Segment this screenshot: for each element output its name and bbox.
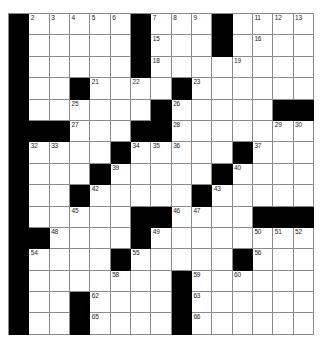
letter-square[interactable]	[172, 249, 192, 270]
letter-square[interactable]: 25	[70, 100, 90, 121]
letter-square[interactable]	[29, 57, 49, 78]
letter-square[interactable]: 47	[192, 207, 212, 228]
letter-square[interactable]	[111, 121, 131, 142]
letter-square[interactable]	[50, 207, 70, 228]
letter-square[interactable]	[192, 57, 212, 78]
letter-square[interactable]: 11	[253, 14, 273, 35]
letter-square[interactable]	[90, 57, 110, 78]
letter-square[interactable]	[90, 35, 110, 56]
letter-square[interactable]	[233, 292, 253, 313]
letter-square[interactable]	[50, 57, 70, 78]
letter-square[interactable]	[233, 35, 253, 56]
letter-square[interactable]	[90, 228, 110, 249]
letter-square[interactable]: 51	[273, 228, 293, 249]
letter-square[interactable]	[172, 57, 192, 78]
letter-square[interactable]: 30	[294, 121, 314, 142]
letter-square[interactable]	[172, 35, 192, 56]
letter-square[interactable]	[233, 78, 253, 99]
letter-square[interactable]: 27	[70, 121, 90, 142]
letter-square[interactable]: 66	[192, 313, 212, 334]
letter-square[interactable]	[233, 185, 253, 206]
letter-square[interactable]: 36	[172, 142, 192, 163]
letter-square[interactable]	[70, 249, 90, 270]
letter-square[interactable]	[273, 57, 293, 78]
letter-square[interactable]: 54	[29, 249, 49, 270]
letter-square[interactable]	[233, 207, 253, 228]
letter-square[interactable]	[50, 185, 70, 206]
letter-square[interactable]	[70, 271, 90, 292]
letter-square[interactable]	[273, 185, 293, 206]
letter-square[interactable]	[29, 164, 49, 185]
letter-square[interactable]	[192, 228, 212, 249]
letter-square[interactable]: 13	[294, 14, 314, 35]
letter-square[interactable]	[151, 78, 171, 99]
letter-square[interactable]	[50, 35, 70, 56]
letter-square[interactable]	[273, 271, 293, 292]
letter-square[interactable]: 39	[111, 164, 131, 185]
letter-square[interactable]	[273, 164, 293, 185]
letter-square[interactable]: 65	[90, 313, 110, 334]
letter-square[interactable]: 7	[151, 14, 171, 35]
letter-square[interactable]	[212, 271, 232, 292]
letter-square[interactable]	[273, 78, 293, 99]
letter-square[interactable]	[90, 142, 110, 163]
letter-square[interactable]	[29, 313, 49, 334]
letter-square[interactable]	[131, 271, 151, 292]
letter-square[interactable]: 62	[90, 292, 110, 313]
letter-square[interactable]: 40	[233, 164, 253, 185]
letter-square[interactable]	[192, 121, 212, 142]
letter-square[interactable]	[90, 100, 110, 121]
letter-square[interactable]: 60	[233, 271, 253, 292]
letter-square[interactable]	[50, 249, 70, 270]
letter-square[interactable]	[111, 78, 131, 99]
letter-square[interactable]: 5	[90, 14, 110, 35]
letter-square[interactable]	[70, 228, 90, 249]
letter-square[interactable]	[131, 313, 151, 334]
letter-square[interactable]: 22	[131, 78, 151, 99]
letter-square[interactable]: 4	[70, 14, 90, 35]
letter-square[interactable]	[131, 100, 151, 121]
letter-square[interactable]: 42	[90, 185, 110, 206]
letter-square[interactable]	[151, 164, 171, 185]
letter-square[interactable]	[111, 207, 131, 228]
letter-square[interactable]	[90, 121, 110, 142]
letter-square[interactable]	[273, 142, 293, 163]
letter-square[interactable]	[192, 35, 212, 56]
letter-square[interactable]: 21	[90, 78, 110, 99]
letter-square[interactable]	[50, 100, 70, 121]
letter-square[interactable]	[50, 292, 70, 313]
letter-square[interactable]	[29, 78, 49, 99]
letter-square[interactable]: 29	[273, 121, 293, 142]
letter-square[interactable]	[273, 249, 293, 270]
letter-square[interactable]: 32	[29, 142, 49, 163]
letter-square[interactable]	[233, 313, 253, 334]
letter-square[interactable]	[253, 292, 273, 313]
letter-square[interactable]	[192, 142, 212, 163]
letter-square[interactable]	[151, 185, 171, 206]
letter-square[interactable]	[111, 35, 131, 56]
letter-square[interactable]: 45	[70, 207, 90, 228]
letter-square[interactable]	[212, 142, 232, 163]
letter-square[interactable]	[172, 228, 192, 249]
letter-square[interactable]: 46	[172, 207, 192, 228]
letter-square[interactable]: 12	[273, 14, 293, 35]
letter-square[interactable]: 49	[151, 228, 171, 249]
letter-square[interactable]	[233, 14, 253, 35]
letter-square[interactable]: 23	[192, 78, 212, 99]
letter-square[interactable]	[212, 100, 232, 121]
letter-square[interactable]: 6	[111, 14, 131, 35]
letter-square[interactable]	[29, 207, 49, 228]
letter-square[interactable]: 2	[29, 14, 49, 35]
letter-square[interactable]	[273, 313, 293, 334]
letter-square[interactable]: 15	[151, 35, 171, 56]
letter-square[interactable]: 48	[50, 228, 70, 249]
letter-square[interactable]: 43	[212, 185, 232, 206]
letter-square[interactable]	[212, 313, 232, 334]
letter-square[interactable]	[131, 185, 151, 206]
letter-square[interactable]: 26	[172, 100, 192, 121]
letter-square[interactable]: 58	[111, 271, 131, 292]
letter-square[interactable]	[253, 78, 273, 99]
letter-square[interactable]	[253, 100, 273, 121]
letter-square[interactable]	[29, 35, 49, 56]
letter-square[interactable]	[212, 228, 232, 249]
